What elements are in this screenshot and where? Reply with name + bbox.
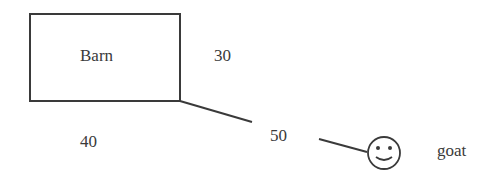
goat-label: goat [437, 142, 466, 159]
diagram-canvas [0, 0, 503, 183]
rope-length-label: 50 [270, 127, 287, 144]
bottom-length-label: 40 [80, 133, 97, 150]
smiley-face-icon [368, 137, 400, 169]
rope-segment-2 [319, 139, 367, 152]
rope-segment-1 [180, 101, 252, 122]
side-length-label: 30 [214, 47, 231, 64]
barn-label: Barn [80, 47, 113, 64]
